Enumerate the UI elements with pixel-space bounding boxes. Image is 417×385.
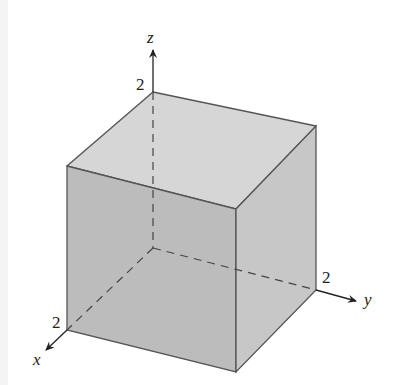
x-tick-label: 2 (52, 313, 61, 332)
y-axis (316, 290, 356, 301)
y-tick-label: 2 (322, 268, 331, 287)
z-axis-label: z (146, 28, 154, 47)
cube-diagram: z 2 y 2 x 2 (0, 0, 417, 385)
x-axis (46, 330, 67, 350)
z-tick-label: 2 (136, 75, 145, 94)
y-axis-label: y (362, 290, 372, 309)
x-axis-label: x (32, 350, 41, 369)
